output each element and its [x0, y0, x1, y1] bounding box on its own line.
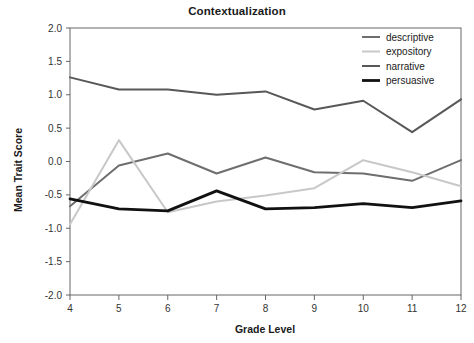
x-tick-label: 4: [67, 303, 73, 314]
y-tick-label: -1.5: [45, 256, 63, 267]
series-line-persuasive: [70, 191, 461, 211]
line-chart-plot: 2.01.51.00.50.0-0.5-1.0-1.5-2.0 45678910…: [0, 0, 474, 343]
x-axis-label: Grade Level: [235, 323, 295, 335]
data-series-layer: [70, 77, 461, 224]
x-tick-label: 10: [358, 303, 370, 314]
legend-label-persuasive: persuasive: [386, 75, 435, 86]
x-axis-ticks: 456789101112: [67, 295, 467, 314]
y-tick-label: 1.5: [48, 56, 62, 67]
legend-label-narrative: narrative: [386, 61, 425, 72]
y-axis-label: Mean Trait Score: [12, 128, 24, 212]
chart-legend: descriptiveexpositorynarrativepersuasive: [362, 32, 435, 87]
y-axis-ticks: 2.01.51.00.50.0-0.5-1.0-1.5-2.0: [45, 23, 70, 301]
series-line-descriptive: [70, 153, 461, 206]
y-tick-label: 0.0: [48, 156, 62, 167]
x-tick-label: 11: [407, 303, 418, 314]
x-tick-label: 7: [214, 303, 220, 314]
y-tick-label: -1.0: [45, 223, 63, 234]
x-tick-label: 9: [312, 303, 318, 314]
y-tick-label: 1.0: [48, 89, 62, 100]
chart-figure: Contextualization 2.01.51.00.50.0-0.5-1.…: [0, 0, 474, 343]
legend-label-expository: expository: [386, 46, 432, 57]
y-tick-label: 2.0: [48, 23, 62, 34]
x-tick-label: 6: [165, 303, 171, 314]
y-tick-label: 0.5: [48, 123, 62, 134]
x-tick-label: 8: [263, 303, 269, 314]
x-tick-label: 12: [455, 303, 467, 314]
y-tick-label: -0.5: [45, 189, 63, 200]
y-tick-label: -2.0: [45, 290, 63, 301]
legend-label-descriptive: descriptive: [386, 32, 434, 43]
series-line-expository: [70, 140, 461, 224]
x-tick-label: 5: [116, 303, 122, 314]
